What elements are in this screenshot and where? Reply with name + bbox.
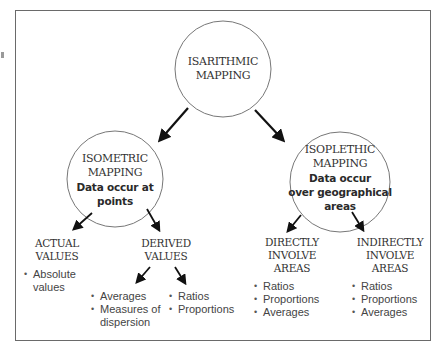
list-item: Ratios [254,280,334,293]
node-description: points [70,194,160,208]
derived-values-left-list: Averages Measures of dispersion [91,290,171,329]
node-indirectly-involve-areas: INDIRECTLY INVOLVE AREAS [350,236,430,275]
node-title: ISARITHMIC [178,55,268,69]
node-actual-values: ACTUAL VALUES [22,237,92,263]
node-description: over geographical [288,185,392,199]
node-title: INVOLVE [350,249,430,262]
node-description: Data occur at [70,180,160,194]
list-item: Proportions [352,293,430,306]
arrow-root-to-isoplethic [255,110,283,140]
node-isarithmic-mapping: ISARITHMIC MAPPING [178,55,268,83]
node-title: MAPPING [288,157,392,171]
node-isometric-mapping: ISOMETRIC MAPPING Data occur at points [70,152,160,208]
arrow-derived-to-averages [137,267,150,282]
node-description: Data occur [288,171,392,185]
node-title: MAPPING [178,69,268,83]
node-title: ISOPLETHIC [288,143,392,157]
list-item: Proportions [254,293,334,306]
indirectly-involve-areas-list: Ratios Proportions Averages [352,280,430,319]
list-item: Averages [91,290,171,303]
node-directly-involve-areas: DIRECTLY INVOLVE AREAS [252,236,332,275]
list-item: Averages [352,306,430,319]
list-item: Absolute values [24,268,82,294]
list-item: Proportions [169,303,239,316]
node-title: INVOLVE [252,249,332,262]
node-title: INDIRECTLY [350,236,430,249]
list-item: Ratios [352,280,430,293]
node-isoplethic-mapping: ISOPLETHIC MAPPING Data occur over geogr… [288,143,392,213]
list-item: Measures of dispersion [91,303,171,329]
arrow-derived-to-ratios [175,267,185,283]
arrow-isometric-to-derived [147,209,159,230]
derived-values-right-list: Ratios Proportions [169,290,239,316]
node-description: areas [288,199,392,213]
node-title: DERIVED [126,237,206,250]
list-item: Averages [254,306,334,319]
list-item: Ratios [169,290,239,303]
node-title: MAPPING [70,166,160,180]
node-title: ACTUAL [22,237,92,250]
node-title: AREAS [252,262,332,275]
arrow-root-to-isometric [160,108,188,140]
node-title: ISOMETRIC [70,152,160,166]
node-derived-values: DERIVED VALUES [126,237,206,263]
node-title: AREAS [350,262,430,275]
directly-involve-areas-list: Ratios Proportions Averages [254,280,334,319]
node-title: VALUES [22,250,92,263]
arrow-isoplethic-to-directly [288,215,301,231]
node-title: DIRECTLY [252,236,332,249]
actual-values-list: Absolute values [24,268,82,294]
node-title: VALUES [126,250,206,263]
